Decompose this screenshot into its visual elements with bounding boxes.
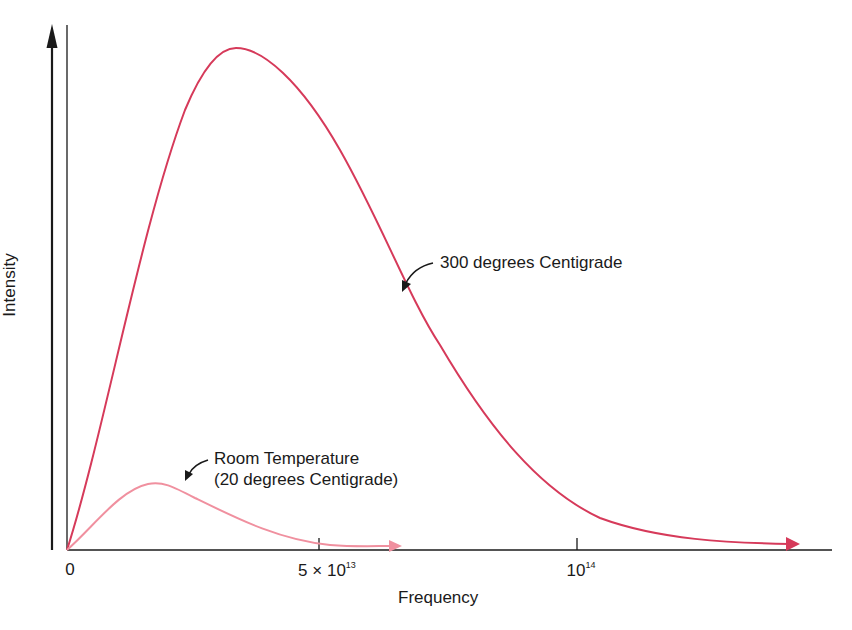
intensity-arrow	[47, 24, 58, 550]
x-tick-label-5e13-exp: 13	[346, 560, 356, 570]
annotation-arrow-300c	[402, 263, 433, 292]
curve-300c	[67, 48, 790, 550]
x-tick-label-5e13: 5 × 1013	[298, 560, 356, 581]
x-tick-label-0: 0	[65, 560, 74, 580]
annotation-room-temp-line1: Room Temperature	[214, 449, 359, 469]
x-tick-label-1e14-base: 10	[567, 561, 586, 580]
x-axis-label: Frequency	[398, 588, 478, 608]
x-tick-label-1e14: 1014	[567, 560, 596, 581]
x-tick-label-1e14-exp: 14	[585, 560, 595, 570]
chart-canvas	[0, 0, 852, 630]
annotation-300c: 300 degrees Centigrade	[440, 253, 622, 273]
curve-300c-arrowhead	[786, 537, 800, 551]
annotation-room-temp-line2: (20 degrees Centigrade)	[214, 470, 398, 490]
annotation-arrow-room-temp	[185, 460, 208, 481]
x-tick-label-5e13-base: 5 × 10	[298, 561, 346, 580]
curve-room-temp	[67, 483, 392, 550]
y-axis-label: Intensity	[0, 253, 20, 316]
